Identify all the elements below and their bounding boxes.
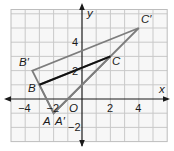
x-tick-label: −4 bbox=[18, 102, 31, 114]
point-label-B-prime: B′ bbox=[19, 56, 30, 68]
dilation-graph: −4−224 42−2 x y O A A′ B B′ C C′ bbox=[0, 0, 174, 151]
point-label-B: B bbox=[28, 82, 36, 94]
x-axis-left-arrow-icon bbox=[4, 96, 11, 102]
point-label-C-prime: C′ bbox=[141, 13, 152, 25]
y-tick-label: 2 bbox=[72, 65, 78, 77]
point-label-A: A bbox=[42, 115, 51, 127]
y-axis-up-arrow-icon bbox=[79, 3, 85, 10]
coordinate-plane-figure: −4−224 42−2 x y O A A′ B B′ C C′ bbox=[0, 0, 174, 151]
origin-label: O bbox=[69, 102, 78, 114]
x-tick-label: 4 bbox=[135, 102, 141, 114]
point-label-C: C bbox=[112, 55, 121, 67]
x-tick-label: −2 bbox=[47, 102, 60, 114]
x-tick-label: 2 bbox=[107, 102, 113, 114]
point-label-A-prime: A′ bbox=[54, 115, 66, 127]
y-tick-label: 4 bbox=[72, 36, 78, 48]
y-axis-down-arrow-icon bbox=[79, 140, 85, 147]
y-tick-label: −2 bbox=[68, 121, 81, 133]
